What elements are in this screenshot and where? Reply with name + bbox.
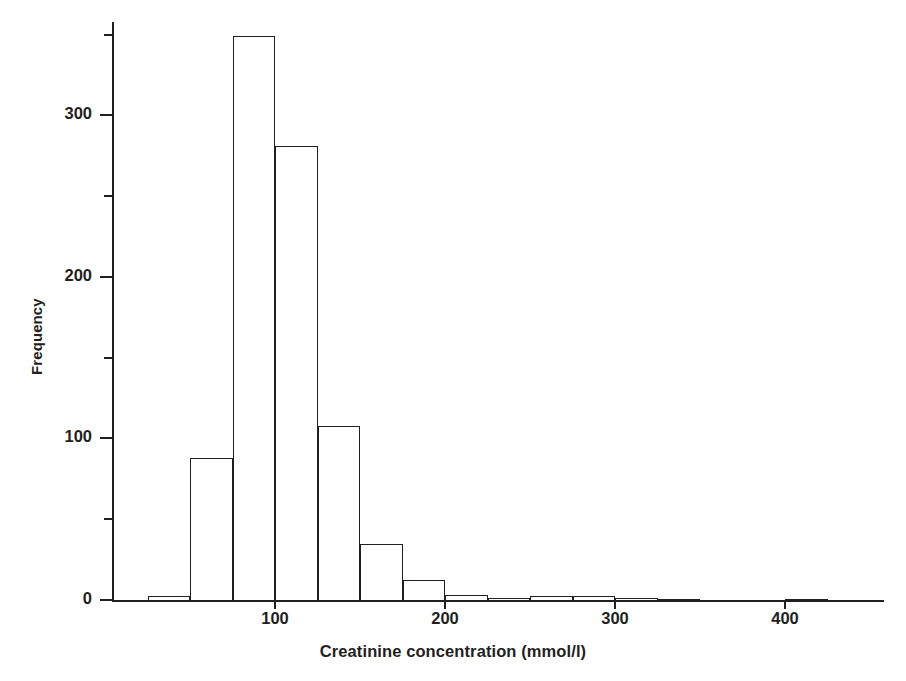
histogram-bar <box>615 598 658 601</box>
y-minor-tick-250 <box>104 195 113 197</box>
y-tick-label-0: 0 <box>30 589 92 608</box>
histogram-bar <box>658 599 701 601</box>
x-tick-label-100: 100 <box>235 609 315 628</box>
y-axis-line <box>112 22 114 602</box>
histogram-bar <box>573 596 616 601</box>
histogram-bar <box>148 596 191 601</box>
histogram-bar <box>233 36 276 601</box>
histogram-bar <box>403 580 446 601</box>
x-major-tick-100 <box>274 600 276 609</box>
histogram-bar <box>318 426 361 601</box>
histogram-bar <box>488 598 531 601</box>
y-minor-tick-150 <box>104 357 113 359</box>
y-minor-tick-350 <box>104 34 113 36</box>
x-major-tick-200 <box>444 600 446 609</box>
histogram-bar <box>445 595 488 601</box>
histogram-figure: 300 200 100 0 Frequency 100 200 300 400 … <box>0 0 906 681</box>
x-tick-label-300: 300 <box>575 609 655 628</box>
histogram-bar <box>530 596 573 601</box>
x-tick-label-400: 400 <box>745 609 825 628</box>
y-major-tick-200 <box>100 276 113 278</box>
histogram-bar <box>275 146 318 601</box>
histogram-bar <box>360 544 403 601</box>
histogram-bar <box>785 599 828 601</box>
y-tick-label-300: 300 <box>30 104 92 123</box>
y-tick-label-200: 200 <box>30 266 92 285</box>
x-tick-label-200: 200 <box>405 609 485 628</box>
y-major-tick-300 <box>100 114 113 116</box>
y-axis-label: Frequency <box>28 298 45 375</box>
x-axis-label: Creatinine concentration (mmol/l) <box>0 642 906 661</box>
histogram-bar <box>190 458 233 601</box>
y-minor-tick-50 <box>104 518 113 520</box>
x-major-tick-300 <box>614 600 616 609</box>
y-major-tick-100 <box>100 437 113 439</box>
y-tick-label-100: 100 <box>30 427 92 446</box>
